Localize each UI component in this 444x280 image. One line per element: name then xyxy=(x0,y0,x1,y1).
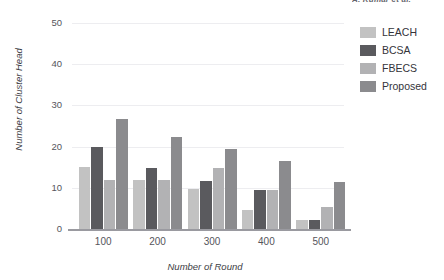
y-tick-label: 50 xyxy=(36,18,62,27)
bar xyxy=(279,161,291,229)
bar xyxy=(146,168,158,229)
x-tick-label: 100 xyxy=(76,236,130,247)
bar xyxy=(213,168,225,229)
legend-swatch-icon xyxy=(360,81,376,92)
chart-figure: A. Kumar et al. Number of Cluster Head 0… xyxy=(0,0,444,280)
x-tick-label: 400 xyxy=(239,236,293,247)
gridline xyxy=(72,64,344,65)
bar xyxy=(200,181,212,229)
legend: LEACHBCSAFBECSProposed xyxy=(360,24,444,96)
y-axis-title: Number of Cluster Head xyxy=(13,30,24,170)
bar xyxy=(116,119,128,229)
bar xyxy=(334,182,346,229)
x-tick-label: 300 xyxy=(185,236,239,247)
legend-label: FBECS xyxy=(382,62,417,74)
x-axis-title: Number of Round xyxy=(0,261,410,272)
y-tick-label: 40 xyxy=(36,59,62,68)
page-header-fragment: A. Kumar et al. xyxy=(352,0,444,4)
y-tick-label: 10 xyxy=(36,183,62,192)
y-tick-label: 30 xyxy=(36,100,62,109)
bar xyxy=(296,220,308,229)
bar xyxy=(133,180,145,229)
bar xyxy=(267,190,279,229)
bar xyxy=(242,210,254,229)
x-axis-line xyxy=(68,229,351,231)
legend-label: Proposed xyxy=(382,80,427,92)
plot-area xyxy=(72,23,344,229)
bar xyxy=(79,167,91,229)
legend-swatch-icon xyxy=(360,45,376,56)
legend-item-proposed[interactable]: Proposed xyxy=(360,78,444,94)
legend-item-fbecs[interactable]: FBECS xyxy=(360,60,444,76)
bar xyxy=(104,180,116,229)
legend-item-bcsa[interactable]: BCSA xyxy=(360,42,444,58)
bar xyxy=(225,149,237,229)
legend-item-leach[interactable]: LEACH xyxy=(360,24,444,40)
gridline xyxy=(72,105,344,106)
y-tick-label: 0 xyxy=(36,224,62,233)
bar xyxy=(91,147,103,229)
legend-label: BCSA xyxy=(382,44,411,56)
legend-swatch-icon xyxy=(360,63,376,74)
bar xyxy=(158,180,170,229)
gridline xyxy=(72,23,344,24)
bar xyxy=(171,137,183,229)
legend-label: LEACH xyxy=(382,26,417,38)
y-tick-label: 20 xyxy=(36,142,62,151)
bar xyxy=(254,190,266,229)
x-tick-label: 200 xyxy=(131,236,185,247)
bar xyxy=(321,207,333,229)
bar xyxy=(188,189,200,229)
x-tick-label: 500 xyxy=(294,236,348,247)
bar xyxy=(309,220,321,229)
gridline xyxy=(72,147,344,148)
legend-swatch-icon xyxy=(360,27,376,38)
